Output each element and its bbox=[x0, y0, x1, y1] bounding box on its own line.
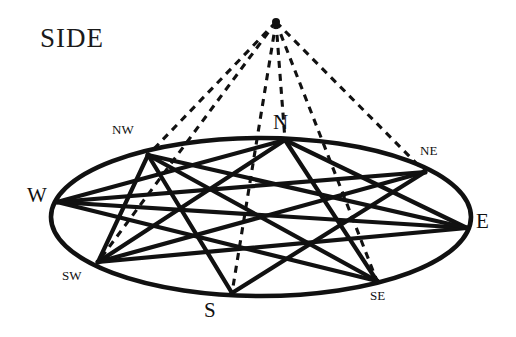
vertex-n bbox=[282, 137, 287, 142]
chord-s-nw bbox=[148, 155, 232, 293]
vertex-se bbox=[374, 278, 379, 283]
compass-label-ne: NE bbox=[420, 143, 437, 159]
vertex-ne bbox=[422, 169, 427, 174]
figure-title: SIDE bbox=[40, 23, 104, 54]
apex-point bbox=[272, 18, 280, 26]
dashed-ray-apex-nw bbox=[148, 22, 276, 155]
compass-cone-figure: SIDE NNEESESSWWNW bbox=[0, 0, 516, 337]
compass-label-e: E bbox=[476, 209, 489, 234]
chord-layer bbox=[57, 140, 467, 293]
compass-label-se: SE bbox=[370, 288, 385, 304]
compass-label-w: W bbox=[27, 183, 47, 208]
compass-label-nw: NW bbox=[112, 122, 134, 138]
dashed-ray-apex-ne bbox=[276, 22, 425, 172]
compass-label-n: N bbox=[273, 110, 288, 135]
vertex-sw bbox=[95, 259, 100, 264]
vertex-s bbox=[229, 290, 234, 295]
compass-label-s: S bbox=[204, 298, 216, 323]
chord-se-nw bbox=[148, 155, 377, 281]
vertex-nw bbox=[145, 152, 150, 157]
vertex-w bbox=[54, 199, 59, 204]
vertex-e bbox=[464, 225, 469, 230]
compass-label-sw: SW bbox=[62, 268, 82, 284]
